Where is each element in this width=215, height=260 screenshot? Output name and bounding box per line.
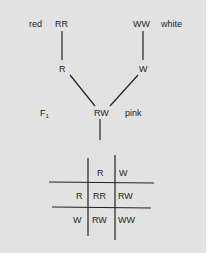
gamete-r: R <box>59 64 66 74</box>
punnett-cell: RW <box>118 191 133 201</box>
f1-phenotype: pink <box>125 108 142 118</box>
genotype-ww: WW <box>133 19 150 29</box>
gamete-w: W <box>139 64 148 74</box>
genotype-rr: RR <box>55 19 68 29</box>
punnett-cell: RR <box>93 191 106 201</box>
punnett-hline-1 <box>49 182 154 183</box>
punnett-hline-2 <box>52 207 151 208</box>
punnett-cell: RW <box>92 215 107 225</box>
line-r-to-rw <box>70 75 95 106</box>
punnett-col-header: W <box>119 168 128 178</box>
f1-genotype: RW <box>94 108 109 118</box>
punnett-cell: WW <box>118 215 135 225</box>
punnett-col-header: R <box>97 168 104 178</box>
punnett-row-header: W <box>73 215 82 225</box>
phenotype-white: white <box>161 19 182 29</box>
phenotype-red: red <box>29 19 42 29</box>
punnett-row-header: R <box>76 191 83 201</box>
cross-lines <box>0 0 215 260</box>
line-w-to-rw <box>110 75 138 106</box>
generation-label: F1 <box>40 108 49 121</box>
